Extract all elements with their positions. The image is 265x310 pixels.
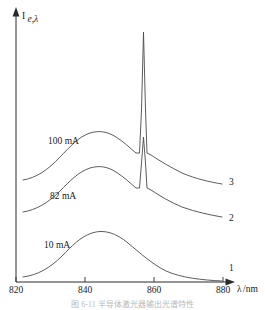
- figure-root: I e,λ λ /nm 820 840 860 880 100 mA 82 mA…: [0, 0, 265, 310]
- y-axis-arrowhead: [13, 7, 20, 17]
- series-numbers: 3 2 1: [229, 177, 234, 273]
- series-number-1: 1: [229, 263, 234, 273]
- x-tick-label-880: 880: [216, 285, 231, 295]
- series-annotations: 100 mA 82 mA 10 mA: [44, 136, 79, 250]
- figure-caption-strip: 图 6-11 半导体激光器输出光谱特性: [0, 299, 265, 310]
- x-tick-label-860: 860: [147, 285, 162, 295]
- y-axis-title: I: [22, 11, 25, 21]
- curve-series-1: [23, 231, 222, 281]
- x-tick-label-820: 820: [9, 285, 24, 295]
- x-axis-title-unit: /nm: [243, 284, 258, 294]
- annotation-10-mA: 10 mA: [44, 240, 70, 250]
- x-axis-title-symbol: λ: [237, 284, 242, 294]
- x-tick-labels: 820 840 860 880: [9, 285, 231, 295]
- curve-series-3: [23, 32, 222, 184]
- series-number-2: 2: [229, 213, 234, 223]
- annotation-100-mA: 100 mA: [48, 136, 79, 146]
- axis-titles: I e,λ λ /nm: [22, 11, 258, 294]
- figure-caption: 图 6-11 半导体激光器输出光谱特性: [0, 300, 265, 310]
- x-tick-label-840: 840: [78, 285, 93, 295]
- spectral-chart: I e,λ λ /nm 820 840 860 880 100 mA 82 mA…: [0, 0, 265, 310]
- series-number-3: 3: [229, 177, 234, 187]
- annotation-82-mA: 82 mA: [50, 191, 76, 201]
- y-axis-title-subscript: e,λ: [28, 14, 39, 24]
